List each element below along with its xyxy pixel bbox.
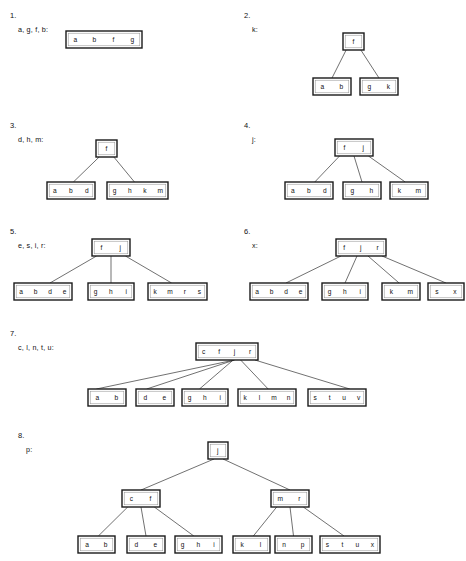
exercise-number-1: 1. [10,12,16,20]
btree-node-key: l [260,541,262,548]
btree-node-key: b [340,83,344,90]
btree-node: klmn [238,389,296,406]
btree-node-key: j [359,244,362,252]
btree-node-key: h [197,541,201,548]
btree-node: gh [343,182,381,199]
btree-node-key: d [323,187,327,194]
btree-node: abd [47,182,95,199]
btree-node: abde [14,283,72,300]
btree-2: fabgk [313,33,398,95]
exercise-keys-label-6: x: [252,242,258,250]
btree-node-key: f [343,244,345,251]
btree-1: abfg [66,31,142,48]
btree-node-key: p [301,541,305,549]
btree-node-key: h [203,394,207,401]
btree-node-key: j [362,144,365,152]
exercise-number-6: 6. [244,228,250,236]
exercise-number-8: 8. [18,432,24,440]
exercise-keys-label-3: d, h, m: [18,136,44,144]
btree-node-key: k [240,541,244,548]
btree-node: ghi [322,283,368,300]
btree-node-key: a [96,394,100,401]
btree-node-key: j [119,244,122,252]
btree-node-key: a [255,288,259,295]
btree-node-key: v [357,394,361,401]
btree-node: kl [233,536,270,553]
exercise-keys-label-2: k: [252,26,258,34]
btree-node-key: x [453,288,457,295]
btree-edge [154,507,194,536]
btree-4: fjabdghkm [285,139,428,199]
btree-edge [290,507,294,536]
btree-edge [368,156,405,182]
btree-node-key: f [105,145,107,152]
btree-node: ghi [175,536,222,553]
btree-node-key: t [329,394,331,401]
exercise-keys-label-8: p: [26,446,32,454]
btree-node: abde [250,283,308,300]
btree-node-key: c [202,348,206,355]
btree-node: j [208,442,228,459]
btree-node-key: d [48,288,52,295]
btree-node: cfjr [196,343,258,360]
btree-edge [114,157,135,182]
btree-node: f [96,140,117,157]
btree-node: fjr [336,239,386,256]
btree-8: jcfmrabdeghiklnpstux [78,442,380,553]
btree-node: abfg [66,31,142,48]
btree-7: cfjrabdeghiklmnstuv [88,343,366,406]
btree-node: sx [428,283,464,300]
btree-node-key: h [370,187,374,194]
btree-node-key: s [435,288,439,295]
btree-node: km [390,182,428,199]
btree-node-key: m [167,288,173,295]
btree-node-key: f [218,348,220,355]
btree-edge [199,360,233,389]
btree-node-key: f [343,144,345,151]
btree-node-key: a [321,83,325,90]
btree-edge [223,459,290,490]
btree-node-key: n [287,394,291,401]
btree-node-key: b [34,288,38,295]
btree-node: ghi [88,283,134,300]
btree-node: de [136,389,174,406]
btree-node: np [275,536,312,553]
exercise-keys-label-7: c, l, n, t, u: [18,344,54,352]
btree-node-key: i [213,541,215,548]
btree-node-key: e [299,288,303,295]
btree-node-key: b [270,288,274,295]
btree-node-key: g [131,36,135,44]
btree-node-key: f [112,36,114,43]
btree-node: stuv [308,389,366,406]
btree-edge [345,256,357,283]
btree-node-key: m [271,394,277,401]
btree-node-key: g [94,288,98,296]
btree-node-key: e [163,394,167,401]
btree-node-key: k [398,187,402,194]
btree-node-key: s [326,541,330,548]
btree-node-key: t [341,541,343,548]
btree-node: ab [88,389,126,406]
btree-node-key: a [53,187,57,194]
btree-edge [141,507,146,536]
btree-node-key: g [113,187,117,195]
btree-node-key: c [130,495,134,502]
btree-edge [73,157,99,182]
btree-node-key: s [198,288,202,295]
btree-node-key: h [128,187,132,194]
btree-edge [98,507,127,536]
btree-node: km [382,283,420,300]
btree-edge [303,507,344,536]
btree-node-key: e [154,541,158,548]
btree-node-key: h [343,288,347,295]
btree-node-key: d [284,288,288,295]
btree-node-key: d [135,541,139,548]
btree-node-key: s [313,394,317,401]
btree-node-key: g [351,187,355,195]
btree-edge [315,156,340,182]
btree-edge [241,360,269,389]
btree-edge [125,256,171,283]
btree-node: f [343,33,364,50]
btree-node-key: f [149,495,151,502]
btree-edge [382,256,446,283]
